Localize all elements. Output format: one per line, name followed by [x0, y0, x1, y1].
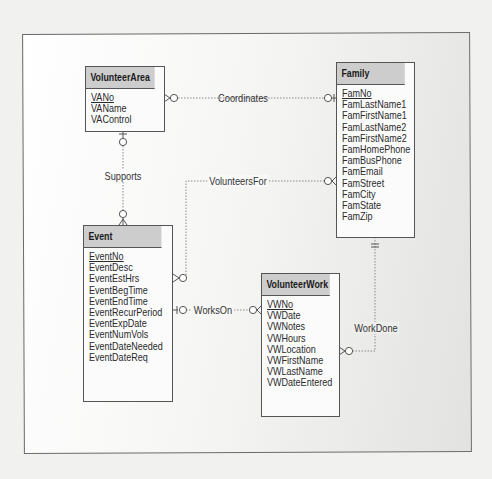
volunteersfor-line [186, 181, 325, 275]
zero-or-one-icon [324, 94, 336, 102]
entity-title: VolunteerArea [86, 67, 155, 89]
relationship-label-supports: Supports [103, 170, 144, 182]
exactly-one-icon [371, 244, 379, 247]
entity-title: Family [337, 63, 405, 85]
attribute: VWDateEntered [267, 377, 325, 388]
entity-title: VolunteerWork [262, 274, 330, 296]
attribute: FamZip [342, 211, 400, 222]
crows-foot-zero-many-icon [249, 306, 261, 314]
attribute: VAControl [91, 114, 149, 125]
crows-foot-zero-many-icon [339, 347, 353, 355]
zero-or-one-icon [119, 131, 127, 146]
relationship-label-workdone: WorkDone [352, 322, 399, 334]
crows-foot-zero-many-icon [164, 94, 178, 102]
entity-volunteer-work[interactable]: VolunteerWork VWNo VWDate VWNotes VWHour… [261, 273, 340, 417]
crows-foot-zero-many-icon [324, 177, 336, 185]
attribute: EventDateReq [89, 352, 156, 363]
entity-family[interactable]: Family FamNo FamLastName1 FamFirstName1 … [336, 62, 415, 238]
crows-foot-zero-many-icon [173, 274, 187, 282]
relationship-label-workson: WorksOn [192, 304, 234, 316]
entity-title: Event [84, 226, 161, 248]
crows-foot-zero-many-icon [119, 210, 127, 225]
relationship-label-volunteersfor: VolunteersFor [207, 175, 268, 187]
entity-volunteer-area[interactable]: VolunteerArea VANo VAName VAControl [85, 66, 165, 132]
entity-event[interactable]: Event EventNo EventDesc EventEstHrs Even… [83, 225, 173, 402]
relationship-label-coordinates: Coordinates [218, 92, 268, 104]
relationship-lines [0, 0, 492, 479]
zero-or-one-icon [173, 306, 187, 314]
